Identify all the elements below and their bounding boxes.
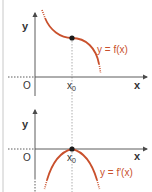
bottom-point-x0 — [69, 146, 74, 151]
top-curve-dotted-start — [42, 10, 45, 18]
top-curve-label: y = f(x) — [97, 44, 128, 55]
bottom-x0-label: x0 — [67, 152, 76, 164]
top-x0-label: x0 — [67, 80, 76, 92]
bottom-x-label: x — [134, 150, 141, 162]
top-x-label: x — [134, 79, 141, 91]
top-point-x0 — [69, 35, 74, 40]
bottom-origin-label: O — [23, 152, 31, 163]
top-y-label: y — [22, 20, 29, 32]
bottom-graph: y O x0 x y = f'(x) — [8, 110, 147, 192]
top-origin-label: O — [23, 80, 31, 91]
bottom-curve-dotted-left — [45, 180, 48, 189]
derivative-diagram: y O x0 x y = f(x) y O x0 x y — [0, 0, 152, 192]
top-curve-dotted-end — [99, 64, 101, 73]
bottom-curve-dotted-right — [97, 180, 100, 189]
bottom-y-label: y — [22, 118, 29, 130]
top-graph: y O x0 x y = f(x) — [8, 10, 147, 96]
bottom-curve-label: y = f'(x) — [100, 167, 133, 178]
